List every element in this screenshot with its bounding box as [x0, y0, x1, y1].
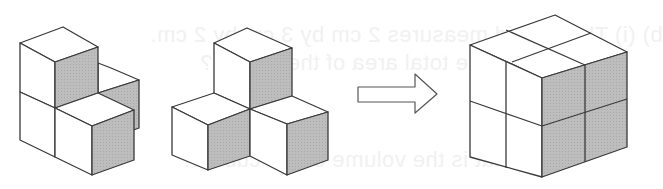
solid-a — [20, 27, 139, 175]
solid-a-top-cube — [20, 27, 98, 108]
composite-cube — [470, 15, 627, 177]
solid-b-top-cube — [214, 28, 292, 109]
solid-b — [172, 28, 328, 175]
right-arrow-icon — [358, 74, 437, 113]
solid-b-right-cube — [250, 96, 328, 175]
solid-a-front-cube — [55, 93, 134, 175]
solid-b-left-cube — [172, 93, 250, 170]
